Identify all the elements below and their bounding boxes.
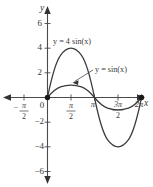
y-axis-down-arrow-icon [44,176,50,184]
annotation-sinx: y = sin(x) [95,65,127,74]
annotation-4sinx: y = 4 sin(x) [53,37,91,46]
x-tick-label-three-half-pi: 3π 2 [113,100,124,120]
x-tick-label-pi: π [91,99,96,109]
y-tick-label-neg2: −2 [34,116,44,126]
x-tick-label-two-pi: 2π [135,99,144,109]
y-tick-label-neg4: −4 [34,141,44,151]
x-axis-label: x [143,98,149,108]
y-tick-label-neg6: −6 [34,166,44,176]
frac-numerator-pi: π [69,101,74,110]
frac-denominator-2: 2 [69,112,73,121]
sine-graph-figure: y x 6 4 2 −2 −4 −6 0 − π 2 π 2 π 3π 2 [0,0,153,187]
x-tick-label-0: 0 [40,100,45,110]
x-tick-label-neg-half-pi: − π 2 [14,101,29,121]
x-tick-label-half-pi: π 2 [67,101,76,121]
y-tick-label-2: 2 [38,67,43,77]
y-axis-up-arrow-icon [44,6,50,14]
y-tick-label-4: 4 [38,42,43,52]
x-axis-left-arrow-icon [3,94,11,101]
y-tick-label-6: 6 [38,18,43,28]
plot-canvas: y x 6 4 2 −2 −4 −6 0 − π 2 π 2 π 3π 2 [0,0,153,187]
y-axis-label: y [39,3,45,13]
frac-denominator-2: 2 [22,112,26,121]
frac-numerator-pi: π [22,101,27,110]
frac-numerator-3pi: 3π [113,100,123,109]
frac-denominator-2: 2 [116,111,120,120]
neg-sign-glyph: − [14,103,19,112]
origin-point-dot [45,95,50,100]
